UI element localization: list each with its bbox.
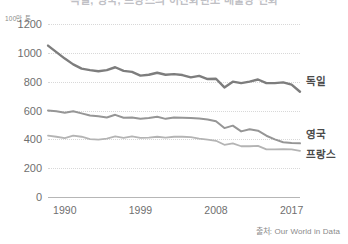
x-axis-tick-label: 1990 [53,205,76,216]
page-title: 독일, 영국, 프랑스의 이산화탄소 배출량 변화 [0,0,348,7]
gridline [48,197,300,198]
series-line-프랑스 [48,136,300,151]
y-axis-tick-label: 200 [24,163,42,174]
y-axis-tick-label: 400 [24,134,42,145]
series-label-영국: 영국 [306,129,326,140]
x-axis-tick-label: 2008 [204,205,227,216]
y-axis-tick-label: 1200 [18,19,42,30]
series-layer [48,24,300,197]
series-line-독일 [48,46,300,92]
series-label-독일: 독일 [306,76,326,87]
y-axis-tick-label: 1000 [18,47,42,58]
y-axis-tick-label: 600 [24,105,42,116]
chart-plot-area: 020040060080010001200 1990199920082017 독… [48,24,300,197]
source-note: 출처: Our World in Data [256,225,340,236]
y-axis-tick-label: 800 [24,76,42,87]
y-axis-tick-label: 0 [36,192,42,203]
x-axis-tick-label: 1999 [129,205,152,216]
series-label-프랑스: 프랑스 [306,149,337,160]
x-axis-tick-label: 2017 [280,205,303,216]
